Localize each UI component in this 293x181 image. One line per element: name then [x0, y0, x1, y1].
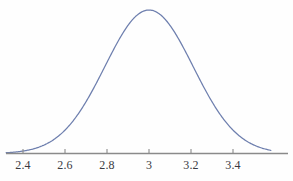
x-axis-group: [6, 149, 288, 154]
normal-distribution-chart: 2.42.62.833.23.4: [0, 0, 293, 181]
bell-curve-group: [6, 10, 271, 153]
normal-curve-line: [6, 10, 271, 153]
chart-plot-area: [0, 0, 293, 181]
x-axis-tick-marks: [23, 149, 233, 153]
